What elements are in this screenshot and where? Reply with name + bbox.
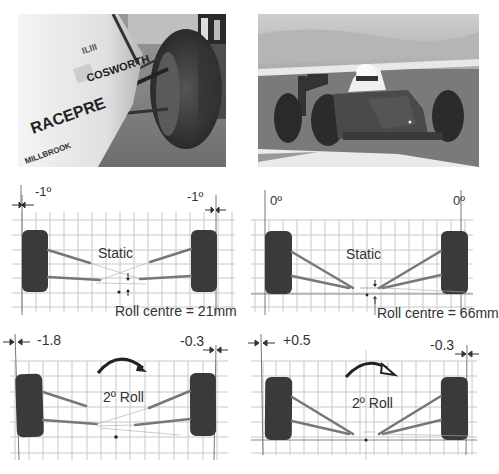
left-camber-label: -1.8 (37, 333, 61, 347)
left-tyre (22, 230, 48, 292)
state-label: 2º Roll (352, 396, 393, 410)
right-tyre (191, 230, 217, 292)
state-label: Static (98, 246, 133, 260)
right-camber-label: -1º (187, 190, 203, 203)
left-camber-label: 0º (270, 194, 282, 207)
diagram-roll-zero-camber: +0.5 -0.3 2º Roll (245, 320, 495, 474)
roll-centre-label: Roll centre = 66mm (377, 306, 499, 320)
diagram-static-negative-camber: -1º -1º Static Roll centre = 21mm (0, 180, 245, 320)
photo-car-side-suspension: ILIII COSWORTH RACEPRE MILLBROOK (18, 14, 226, 167)
right-tyre (441, 231, 468, 294)
roll-centre-marker (364, 438, 367, 441)
roll-centre-label: Roll centre = 21mm (115, 304, 237, 318)
roll-centre-marker (366, 294, 369, 297)
right-camber-label: -0.3 (430, 338, 454, 352)
right-tyre (441, 377, 468, 440)
right-camber-label: -0.3 (180, 334, 204, 348)
state-label: Static (346, 247, 381, 261)
right-camber-label: 0º (453, 194, 465, 207)
photo-car-on-track (258, 14, 479, 167)
left-tyre (265, 377, 293, 440)
roll-centre-marker (114, 435, 118, 439)
left-tyre (15, 374, 44, 438)
left-camber-label: +0.5 (283, 333, 311, 347)
right-tyre (190, 373, 216, 436)
left-camber-label: -1º (35, 185, 51, 198)
roll-centre-marker (117, 290, 120, 293)
left-tyre (265, 231, 292, 294)
state-label: 2º Roll (103, 390, 144, 404)
diagram-static-zero-camber: 0º 0º Static Roll centre = 66mm (245, 180, 495, 320)
diagram-roll-negative-camber: -1.8 -0.3 2º Roll (0, 320, 245, 474)
